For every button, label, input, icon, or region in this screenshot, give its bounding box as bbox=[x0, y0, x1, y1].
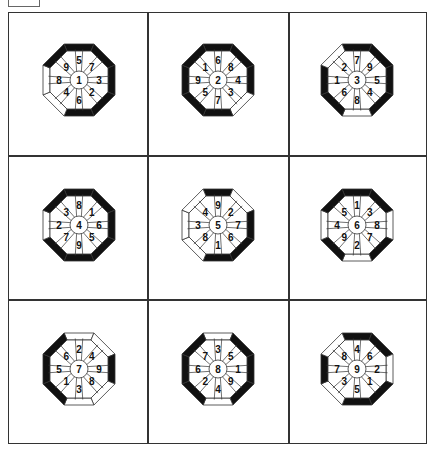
sector-label-se: 9 bbox=[228, 376, 234, 387]
edge-w-black bbox=[321, 354, 328, 384]
sector-label-w: 8 bbox=[56, 75, 62, 86]
edge-n-black bbox=[203, 44, 233, 51]
edge-e-black bbox=[108, 210, 115, 240]
sector-label-s: 7 bbox=[215, 95, 221, 106]
edge-s-white bbox=[64, 398, 94, 405]
sector-label-sw: 5 bbox=[202, 87, 208, 98]
sector-label-ne: 9 bbox=[367, 62, 373, 73]
octagon-piece-9: 946215378 bbox=[317, 329, 397, 409]
edge-w-white bbox=[43, 210, 50, 240]
sector-label-ne: 6 bbox=[367, 351, 373, 362]
edge-w-black bbox=[321, 65, 328, 95]
edge-e-white bbox=[386, 354, 393, 384]
sector-label-s: 5 bbox=[354, 384, 360, 395]
sector-label-nw: 7 bbox=[202, 351, 208, 362]
center-label: 5 bbox=[215, 220, 221, 231]
sector-label-w: 4 bbox=[334, 220, 340, 231]
sector-label-e: 7 bbox=[235, 220, 241, 231]
sector-label-ne: 1 bbox=[89, 207, 95, 218]
edge-n-black bbox=[342, 189, 372, 196]
sector-label-se: 7 bbox=[367, 232, 373, 243]
octagon-piece-3: 379548612 bbox=[317, 40, 397, 120]
sector-label-nw: 9 bbox=[63, 62, 69, 73]
sector-label-se: 1 bbox=[367, 376, 373, 387]
sector-label-sw: 3 bbox=[341, 376, 347, 387]
sector-label-nw: 5 bbox=[341, 207, 347, 218]
sector-label-e: 9 bbox=[96, 364, 102, 375]
sector-label-w: 1 bbox=[334, 75, 340, 86]
octagon-piece-8: 835194267 bbox=[178, 329, 258, 409]
sector-label-n: 7 bbox=[354, 55, 360, 66]
grid-divider-h2 bbox=[8, 299, 427, 301]
center-label: 7 bbox=[76, 364, 82, 375]
grid-divider-h1 bbox=[8, 155, 427, 157]
edge-s-black bbox=[64, 254, 94, 261]
sector-label-n: 9 bbox=[215, 200, 221, 211]
edge-n-black bbox=[64, 44, 94, 51]
edge-e-white bbox=[386, 210, 393, 240]
sector-label-nw: 3 bbox=[63, 207, 69, 218]
edge-w-white bbox=[321, 210, 328, 240]
edge-w-black bbox=[43, 354, 50, 384]
sector-label-sw: 4 bbox=[63, 87, 69, 98]
octagon-piece-5: 592761834 bbox=[178, 185, 258, 265]
sector-label-n: 8 bbox=[76, 200, 82, 211]
sector-label-nw: 1 bbox=[202, 62, 208, 73]
figure-label-box bbox=[8, 0, 40, 7]
sector-label-e: 8 bbox=[374, 220, 380, 231]
sector-label-se: 8 bbox=[89, 376, 95, 387]
grid-divider-v2 bbox=[288, 12, 290, 444]
sector-label-s: 6 bbox=[76, 95, 82, 106]
edge-n-white bbox=[64, 333, 94, 340]
sector-label-w: 3 bbox=[195, 220, 201, 231]
sector-label-n: 4 bbox=[354, 344, 360, 355]
octagon-piece-7: 724983156 bbox=[39, 329, 119, 409]
sector-label-e: 2 bbox=[374, 364, 380, 375]
sector-label-n: 1 bbox=[354, 200, 360, 211]
edge-e-black bbox=[247, 65, 254, 95]
sector-label-ne: 3 bbox=[367, 207, 373, 218]
edge-w-white bbox=[182, 210, 189, 240]
sector-label-sw: 9 bbox=[341, 232, 347, 243]
sector-label-e: 1 bbox=[235, 364, 241, 375]
sector-label-s: 2 bbox=[354, 240, 360, 251]
edge-e-black bbox=[386, 65, 393, 95]
edge-e-black bbox=[247, 210, 254, 240]
center-label: 8 bbox=[215, 364, 221, 375]
sector-label-e: 5 bbox=[374, 75, 380, 86]
sector-label-n: 6 bbox=[215, 55, 221, 66]
octagon-piece-1: 157326489 bbox=[39, 40, 119, 120]
sector-label-se: 2 bbox=[89, 87, 95, 98]
sector-label-sw: 6 bbox=[341, 87, 347, 98]
sector-label-s: 1 bbox=[215, 240, 221, 251]
edge-n-black bbox=[342, 44, 372, 51]
sector-label-n: 5 bbox=[76, 55, 82, 66]
octagon-piece-4: 481659723 bbox=[39, 185, 119, 265]
center-label: 2 bbox=[215, 75, 221, 86]
grid-divider-v1 bbox=[147, 12, 149, 444]
sector-label-s: 3 bbox=[76, 384, 82, 395]
sector-label-w: 2 bbox=[56, 220, 62, 231]
edge-n-black bbox=[342, 333, 372, 340]
sector-label-ne: 4 bbox=[89, 351, 95, 362]
sector-label-nw: 8 bbox=[341, 351, 347, 362]
edge-s-black bbox=[64, 109, 94, 116]
edge-s-black bbox=[203, 254, 233, 261]
edge-n-black bbox=[64, 189, 94, 196]
center-label: 9 bbox=[354, 364, 360, 375]
sector-label-s: 8 bbox=[354, 95, 360, 106]
sector-label-sw: 2 bbox=[202, 376, 208, 387]
sector-label-se: 6 bbox=[228, 232, 234, 243]
edge-s-black bbox=[203, 109, 233, 116]
edge-s-white bbox=[342, 254, 372, 261]
sector-label-sw: 7 bbox=[63, 232, 69, 243]
sector-label-e: 6 bbox=[96, 220, 102, 231]
edge-n-black bbox=[203, 189, 233, 196]
sector-label-w: 5 bbox=[56, 364, 62, 375]
sector-label-nw: 4 bbox=[202, 207, 208, 218]
sector-label-ne: 7 bbox=[89, 62, 95, 73]
sector-label-sw: 8 bbox=[202, 232, 208, 243]
sector-label-nw: 6 bbox=[63, 351, 69, 362]
edge-s-white bbox=[342, 109, 372, 116]
sector-label-ne: 2 bbox=[228, 207, 234, 218]
